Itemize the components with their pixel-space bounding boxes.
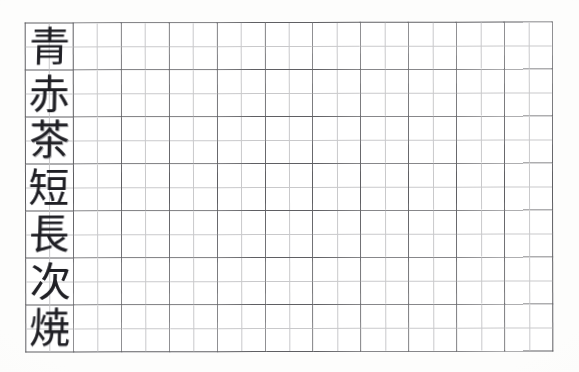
cell-subdivision-vertical-line xyxy=(337,70,338,116)
practice-cell-empty[interactable] xyxy=(121,117,169,164)
cell-subdivision-horizontal-line xyxy=(266,187,313,188)
practice-cell-empty[interactable] xyxy=(265,22,313,69)
practice-cell-empty[interactable] xyxy=(361,210,409,257)
practice-cell-empty[interactable] xyxy=(313,257,361,304)
practice-cell-empty[interactable] xyxy=(457,163,505,210)
practice-cell-empty[interactable] xyxy=(169,305,217,352)
cell-subdivision-vertical-line xyxy=(145,211,146,257)
practice-cell-empty[interactable] xyxy=(409,257,457,304)
practice-cell-empty[interactable] xyxy=(217,23,265,70)
practice-cell-empty[interactable] xyxy=(121,70,169,117)
cell-subdivision-horizontal-line xyxy=(409,187,456,188)
prompt-kanji-glyph: 次 xyxy=(26,259,75,305)
practice-cell-empty[interactable] xyxy=(313,163,361,210)
practice-cell-empty[interactable] xyxy=(265,210,313,257)
prompt-kanji-cell[interactable]: 赤 xyxy=(25,70,73,117)
cell-subdivision-vertical-line xyxy=(289,164,290,210)
practice-cell-empty[interactable] xyxy=(504,22,552,69)
practice-cell-empty[interactable] xyxy=(73,23,121,70)
practice-cell-empty[interactable] xyxy=(457,210,505,257)
practice-cell-empty[interactable] xyxy=(73,211,121,258)
practice-cell-empty[interactable] xyxy=(122,305,170,352)
cell-subdivision-vertical-line xyxy=(385,164,386,210)
cell-subdivision-horizontal-line xyxy=(170,234,217,235)
practice-cell-empty[interactable] xyxy=(361,257,409,304)
practice-cell-empty[interactable] xyxy=(169,70,217,117)
practice-cell-empty[interactable] xyxy=(313,116,361,163)
practice-cell-empty[interactable] xyxy=(409,210,457,257)
practice-cell-empty[interactable] xyxy=(217,211,265,258)
prompt-kanji-cell[interactable]: 次 xyxy=(26,258,74,305)
practice-cell-empty[interactable] xyxy=(217,305,265,352)
practice-cell-empty[interactable] xyxy=(73,117,121,164)
practice-cell-empty[interactable] xyxy=(457,257,505,304)
prompt-kanji-cell[interactable]: 青 xyxy=(25,23,73,70)
practice-grid-row: 長 xyxy=(26,210,553,258)
cell-subdivision-horizontal-line xyxy=(74,46,121,47)
practice-cell-empty[interactable] xyxy=(409,163,457,210)
practice-cell-empty[interactable] xyxy=(504,69,552,116)
cell-subdivision-horizontal-line xyxy=(266,234,313,235)
practice-cell-empty[interactable] xyxy=(74,305,122,352)
practice-cell-empty[interactable] xyxy=(169,211,217,258)
cell-subdivision-vertical-line xyxy=(193,164,194,210)
practice-cell-empty[interactable] xyxy=(217,258,265,305)
practice-cell-empty[interactable] xyxy=(505,304,553,351)
practice-cell-empty[interactable] xyxy=(361,116,409,163)
practice-cell-empty[interactable] xyxy=(265,304,313,351)
practice-cell-empty[interactable] xyxy=(217,70,265,117)
cell-subdivision-vertical-line xyxy=(145,164,146,210)
practice-cell-empty[interactable] xyxy=(121,164,169,211)
practice-cell-empty[interactable] xyxy=(361,304,409,351)
practice-cell-empty[interactable] xyxy=(409,69,457,116)
practice-cell-empty[interactable] xyxy=(73,164,121,211)
practice-cell-empty[interactable] xyxy=(169,258,217,305)
practice-cell-empty[interactable] xyxy=(505,257,553,304)
prompt-kanji-cell[interactable]: 短 xyxy=(25,164,73,211)
prompt-kanji-cell[interactable]: 長 xyxy=(26,211,74,258)
practice-cell-empty[interactable] xyxy=(409,116,457,163)
cell-subdivision-vertical-line xyxy=(193,211,194,257)
cell-subdivision-horizontal-line xyxy=(74,140,121,141)
practice-cell-empty[interactable] xyxy=(313,22,361,69)
cell-subdivision-horizontal-line xyxy=(218,140,265,141)
cell-subdivision-horizontal-line xyxy=(457,234,504,235)
practice-cell-empty[interactable] xyxy=(361,22,409,69)
practice-cell-empty[interactable] xyxy=(265,116,313,163)
cell-subdivision-vertical-line xyxy=(528,22,529,68)
practice-cell-empty[interactable] xyxy=(505,163,553,210)
practice-cell-empty[interactable] xyxy=(169,117,217,164)
worksheet-page: 青赤茶短長次焼 xyxy=(0,0,579,372)
practice-cell-empty[interactable] xyxy=(265,163,313,210)
practice-cell-empty[interactable] xyxy=(313,304,361,351)
practice-cell-empty[interactable] xyxy=(457,116,505,163)
practice-cell-empty[interactable] xyxy=(265,69,313,116)
practice-cell-empty[interactable] xyxy=(313,210,361,257)
practice-cell-empty[interactable] xyxy=(457,304,505,351)
practice-cell-empty[interactable] xyxy=(121,211,169,258)
practice-cell-empty[interactable] xyxy=(409,304,457,351)
practice-cell-empty[interactable] xyxy=(217,164,265,211)
prompt-kanji-cell[interactable]: 茶 xyxy=(25,117,73,164)
practice-cell-empty[interactable] xyxy=(504,116,552,163)
practice-cell-empty[interactable] xyxy=(456,22,504,69)
prompt-kanji-cell[interactable]: 焼 xyxy=(26,305,74,352)
practice-cell-empty[interactable] xyxy=(169,164,217,211)
cell-subdivision-horizontal-line xyxy=(410,328,457,329)
practice-cell-empty[interactable] xyxy=(313,69,361,116)
practice-cell-empty[interactable] xyxy=(74,258,122,305)
practice-cell-empty[interactable] xyxy=(505,210,553,257)
practice-cell-empty[interactable] xyxy=(73,70,121,117)
practice-cell-empty[interactable] xyxy=(265,257,313,304)
cell-subdivision-vertical-line xyxy=(97,164,98,210)
practice-cell-empty[interactable] xyxy=(408,22,456,69)
practice-cell-empty[interactable] xyxy=(121,23,169,70)
practice-cell-empty[interactable] xyxy=(361,163,409,210)
practice-cell-empty[interactable] xyxy=(121,258,169,305)
practice-cell-empty[interactable] xyxy=(456,69,504,116)
practice-cell-empty[interactable] xyxy=(217,117,265,164)
cell-subdivision-horizontal-line xyxy=(313,46,360,47)
practice-cell-empty[interactable] xyxy=(169,23,217,70)
practice-cell-empty[interactable] xyxy=(361,69,409,116)
prompt-kanji-glyph: 長 xyxy=(26,210,74,257)
